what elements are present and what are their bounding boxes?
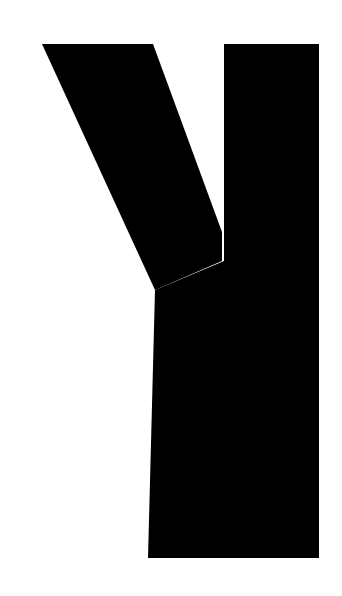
lower-diagonal-leg-shape <box>148 261 224 558</box>
letter-k-glyph <box>0 0 342 596</box>
vertical-stem-shape <box>224 44 319 558</box>
image-canvas <box>0 0 342 596</box>
